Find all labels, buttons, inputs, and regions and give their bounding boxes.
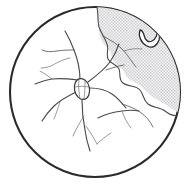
fundus-illustration-canvas — [0, 0, 194, 185]
fundus-diagram: Retinal detachment fundus diagram — [0, 0, 194, 185]
